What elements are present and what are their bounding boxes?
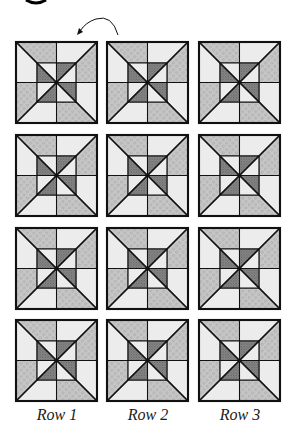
quilt-block-r1-c1 (16, 42, 97, 123)
quilt-block-r4-c2 (107, 320, 188, 401)
column-label-1: Row 1 (12, 406, 102, 424)
quilt-block-r3-c2 (107, 228, 188, 309)
quilt-block-r2-c1 (16, 135, 97, 216)
center-point (145, 80, 149, 84)
center-point (145, 358, 149, 362)
quilt-block-r4-c3 (199, 320, 280, 401)
center-point (237, 266, 241, 270)
center-point (145, 173, 149, 177)
column-label-2: Row 2 (103, 406, 193, 424)
quilt-block-r4-c1 (16, 320, 97, 401)
center-point (237, 173, 241, 177)
center-point (54, 358, 58, 362)
column-label-3: Row 3 (195, 406, 285, 424)
center-point (237, 80, 241, 84)
quilt-block-r2-c2 (107, 135, 188, 216)
quilt-block-r3-c3 (199, 228, 280, 309)
quilt-block-grid (16, 42, 280, 401)
quilt-block-r3-c1 (16, 228, 97, 309)
center-point (237, 358, 241, 362)
quilt-block-r2-c3 (199, 135, 280, 216)
center-point (145, 266, 149, 270)
rotate-arrow-icon (77, 18, 118, 35)
quilt-block-r1-c2 (107, 42, 188, 123)
center-point (54, 173, 58, 177)
quilt-diagram (0, 0, 291, 441)
quilt-block-r1-c3 (199, 42, 280, 123)
cropped-step-glyph (26, 0, 46, 3)
center-point (54, 266, 58, 270)
center-point (54, 80, 58, 84)
